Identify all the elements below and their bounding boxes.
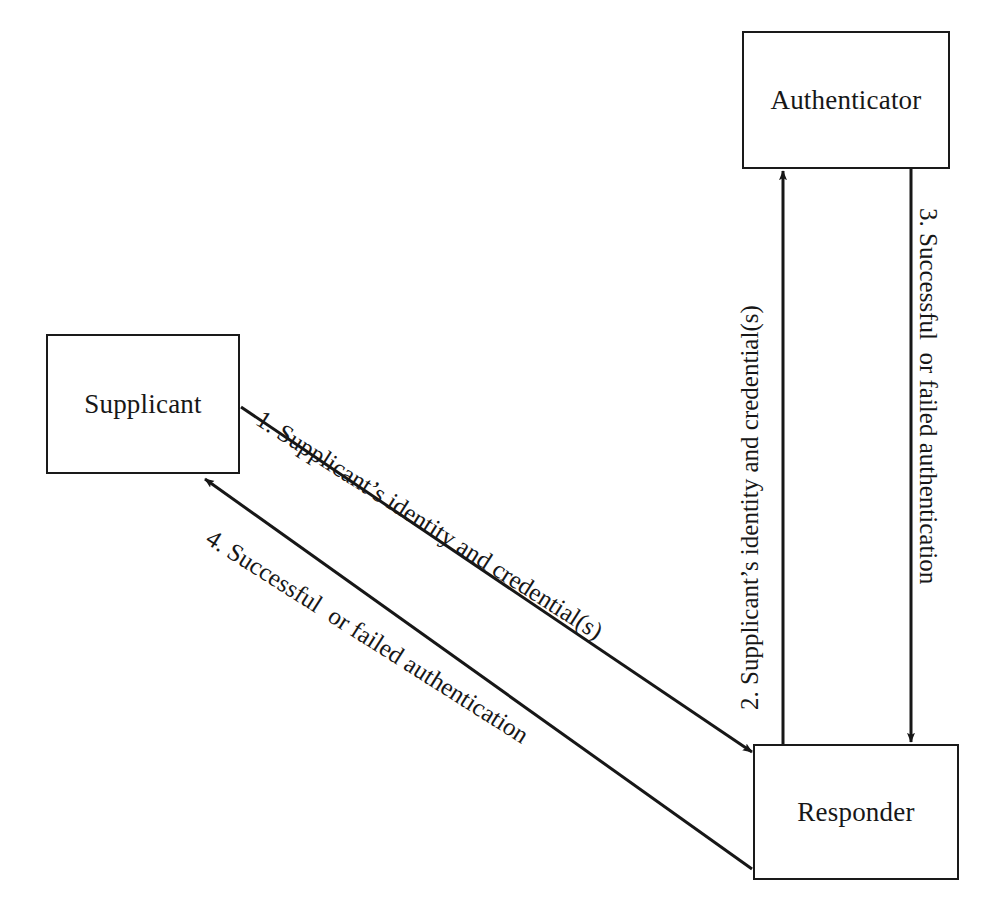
diagram-canvas: Authenticator Supplicant Responder 1. Su…: [0, 0, 995, 912]
node-supplicant-label: Supplicant: [84, 389, 202, 420]
edge-label-responder-to-authenticator: 2. Supplicant’s identity and credential(…: [736, 305, 764, 710]
node-responder-label: Responder: [797, 797, 914, 828]
node-authenticator-label: Authenticator: [770, 85, 921, 116]
connector-responder-to-supplicant: [205, 479, 752, 869]
node-supplicant[interactable]: Supplicant: [46, 334, 240, 474]
node-responder[interactable]: Responder: [753, 744, 959, 880]
node-authenticator[interactable]: Authenticator: [742, 31, 950, 169]
edge-label-authenticator-to-responder: 3. Successful or failed authentication: [914, 208, 942, 584]
